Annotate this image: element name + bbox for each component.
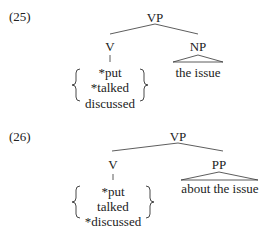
verb-option: talked: [82, 200, 144, 214]
phrase-text: about the issue: [179, 182, 261, 196]
verb-label: V: [100, 40, 120, 54]
example-number: (25): [9, 10, 31, 24]
phrase-text: the issue: [170, 66, 226, 80]
root-label: VP: [140, 11, 170, 25]
verb-option: *talked: [80, 81, 140, 95]
verb-option: *put: [82, 185, 144, 199]
phrase-label: NP: [185, 40, 211, 54]
verb-option: discussed: [80, 97, 140, 111]
root-label: VP: [163, 130, 193, 144]
phrase-label: PP: [206, 158, 232, 172]
example-number: (26): [9, 130, 31, 144]
verb-option: *put: [80, 66, 140, 80]
verb-label: V: [103, 158, 123, 172]
verb-option: *discussed: [82, 215, 144, 229]
